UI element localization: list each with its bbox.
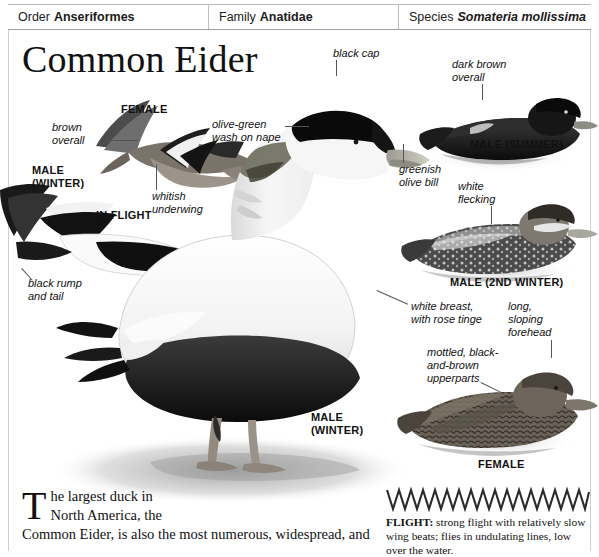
leader-dark-brown-overall — [482, 84, 483, 100]
leader-long-sloping-forehead — [551, 340, 552, 358]
label-mottled-upperparts: mottled, black- and-brown upperparts — [427, 346, 499, 385]
leader-whitish-underwing — [156, 164, 157, 190]
flight-section: FLIGHT: strong flight with relatively sl… — [386, 486, 590, 557]
male-2nd-winter-swimming-illustration — [401, 204, 598, 285]
label-dark-brown-overall: dark brown overall — [452, 58, 506, 84]
male-summer-swimming-illustration — [419, 98, 598, 172]
taxonomy-species-value: Somateria mollissima — [457, 10, 586, 24]
leader-greenish-olive-bill — [403, 144, 404, 163]
taxonomy-order: Order Anseriformes — [18, 5, 135, 29]
label-greenish-olive-bill: greenish olive bill — [399, 163, 441, 189]
label-male-summer: MALE (SUMMER) — [470, 138, 563, 151]
species-description: T he largest duck in North America, the … — [22, 487, 378, 544]
taxonomy-family-key: Family — [219, 10, 256, 24]
label-female-in-flight: FEMALE — [121, 103, 167, 116]
flight-path-zigzag-icon — [386, 486, 590, 512]
leader-white-flecking — [491, 206, 492, 224]
female-swimming-illustration — [397, 373, 598, 458]
label-long-sloping-forehead: long, sloping forehead — [508, 300, 551, 339]
label-female-swimming: FEMALE — [478, 458, 524, 471]
label-in-flight: IN FLIGHT — [96, 209, 152, 222]
leader-brown-overall — [106, 140, 138, 141]
label-male-2nd-winter: MALE (2ND WINTER) — [450, 276, 563, 289]
taxonomy-species: Species Somateria mollissima — [409, 5, 586, 29]
taxonomy-family: Family Anatidae — [219, 5, 313, 29]
taxonomy-order-value: Anseriformes — [54, 10, 135, 24]
label-black-cap: black cap — [333, 47, 379, 60]
flight-description: FLIGHT: strong flight with relatively sl… — [386, 515, 590, 557]
taxonomy-order-key: Order — [18, 10, 50, 24]
taxonomy-divider-2 — [398, 5, 399, 29]
taxonomy-header: Order Anseriformes Family Anatidae Speci… — [8, 4, 591, 30]
label-white-flecking: white flecking — [458, 180, 495, 206]
taxonomy-family-value: Anatidae — [260, 10, 313, 24]
taxonomy-species-key: Species — [409, 10, 453, 24]
description-line-3: Common Eider, is also the most numerous,… — [22, 526, 370, 542]
taxonomy-divider-1 — [208, 5, 209, 29]
label-white-breast: white breast, with rose tinge — [411, 300, 482, 326]
label-black-rump-and-tail: black rump and tail — [28, 277, 82, 303]
label-whitish-underwing: whitish underwing — [152, 190, 203, 216]
flight-heading: FLIGHT: — [386, 516, 433, 528]
leader-olive-green-wash — [285, 126, 309, 127]
label-male-winter-standing: MALE (WINTER) — [311, 411, 363, 437]
leader-black-cap — [336, 60, 337, 76]
drop-cap: T — [22, 487, 50, 522]
description-line-1: he largest duck in — [50, 488, 152, 504]
description-line-2: North America, the — [50, 507, 162, 523]
label-brown-overall: brown overall — [52, 121, 84, 147]
label-male-winter-in-flight: MALE (WINTER) — [32, 164, 84, 190]
label-olive-green-wash: olive-green wash on nape — [212, 118, 281, 144]
